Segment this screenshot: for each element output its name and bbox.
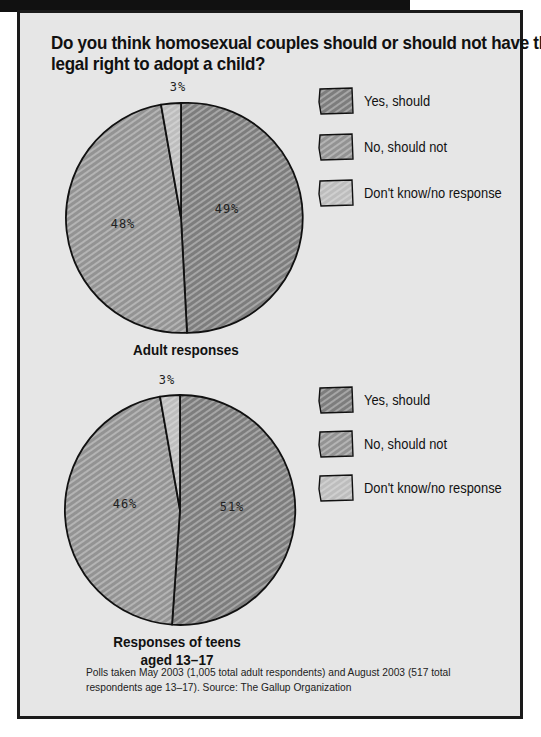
legend-label-dont-know: Don't know/no response [364, 480, 502, 496]
teen-pie [65, 395, 295, 625]
legend-item-no: No, should not [318, 133, 518, 163]
teen-caption: Responses of teens aged 13–17 [113, 633, 241, 669]
legend-label-no: No, should not [364, 436, 447, 452]
adult-label-no: 48% [111, 217, 136, 231]
teen-caption-line-1: Responses of teens [113, 633, 241, 651]
legend-item-yes: Yes, should [318, 87, 518, 117]
legend-label-yes: Yes, should [364, 392, 430, 408]
adult-slice-yes [181, 103, 303, 333]
legend-item-dont-know: Don't know/no response [318, 179, 518, 209]
legend-label-no: No, should not [364, 139, 447, 155]
swatch-dont-know-icon [318, 474, 354, 502]
legend-label-dont-know: Don't know/no response [364, 185, 502, 201]
teen-label-no: 46% [113, 497, 138, 511]
swatch-no-icon [318, 430, 354, 458]
swatch-no-icon [318, 133, 354, 161]
legend-label-yes: Yes, should [364, 93, 430, 109]
teen-label-yes: 51% [220, 500, 245, 514]
legend-item-yes: Yes, should [318, 386, 518, 416]
adult-label-dont-know: 3% [170, 80, 186, 94]
adult-caption-text: Adult responses [133, 341, 239, 359]
swatch-dont-know-icon [318, 179, 354, 207]
adult-pie [66, 103, 303, 333]
legend-item-dont-know: Don't know/no response [318, 474, 518, 504]
swatch-yes-icon [318, 87, 354, 115]
teen-label-dont-know: 3% [159, 373, 175, 387]
adult-caption: Adult responses [133, 341, 239, 359]
swatch-yes-icon [318, 386, 354, 414]
source-footnote: Polls taken May 2003 (1,005 total adult … [86, 665, 477, 695]
legend-item-no: No, should not [318, 430, 518, 460]
adult-label-yes: 49% [215, 202, 240, 216]
